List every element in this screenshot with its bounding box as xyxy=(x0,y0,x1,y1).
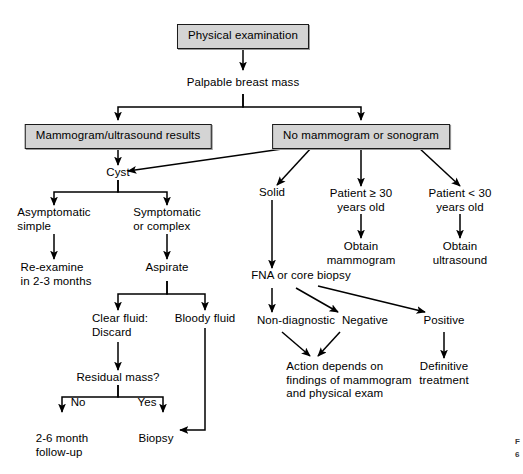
node-physical-examination: Physical examination xyxy=(177,24,309,49)
node-no-mammogram-or-sonogram: No mammogram or sonogram xyxy=(272,124,450,149)
node-obtain-ultrasound: Obtain ultrasound xyxy=(433,240,488,267)
node-re-examine: Re-examine in 2-3 months xyxy=(21,261,92,288)
node-patient-lt-30: Patient < 30 years old xyxy=(429,187,492,214)
node-negative: Negative xyxy=(342,314,388,328)
figure-caption-line1: F xyxy=(515,437,520,447)
node-non-diagnostic: Non-diagnostic xyxy=(257,314,335,328)
node-patient-ge-30: Patient ≥ 30 years old xyxy=(330,187,393,214)
edge-label-yes: Yes xyxy=(138,396,157,409)
node-action-depends: Action depends on findings of mammogram … xyxy=(286,360,411,401)
node-fna-or-core-biopsy: FNA or core biopsy xyxy=(251,269,351,283)
node-obtain-mammogram: Obtain mammogram xyxy=(327,240,396,267)
node-asymptomatic-simple: Asymptomatic simple xyxy=(17,206,90,233)
node-aspirate: Aspirate xyxy=(146,261,189,275)
node-clear-fluid-discard: Clear fluid: Discard xyxy=(92,312,148,339)
node-residual-mass: Residual mass? xyxy=(76,371,159,385)
flowchart-diagram: Physical examination Palpable breast mas… xyxy=(0,0,523,474)
node-mammogram-ultrasound-results: Mammogram/ultrasound results xyxy=(25,124,212,149)
node-follow-up: 2-6 month follow-up xyxy=(36,432,89,459)
edge-label-no: No xyxy=(71,396,86,409)
node-biopsy: Biopsy xyxy=(138,432,173,446)
node-bloody-fluid: Bloody fluid xyxy=(175,312,236,326)
node-positive: Positive xyxy=(423,314,464,328)
node-solid: Solid xyxy=(259,186,285,200)
node-symptomatic-or-complex: Symptomatic or complex xyxy=(133,206,201,233)
node-definitive-treatment: Definitive treatment xyxy=(419,360,468,387)
node-cyst: Cyst xyxy=(106,166,129,180)
node-palpable-breast-mass: Palpable breast mass xyxy=(187,76,300,90)
figure-caption-line2: 6 xyxy=(515,450,519,460)
